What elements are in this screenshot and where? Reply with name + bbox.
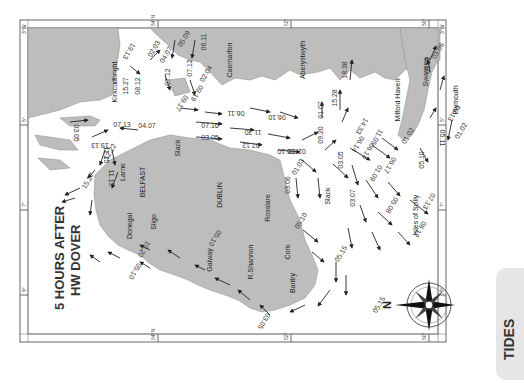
svg-text:52°: 52° — [283, 332, 289, 340]
svg-text:5°: 5° — [439, 117, 445, 122]
stream-rate-label: 04.07 — [138, 122, 156, 129]
svg-text:54°N: 54°N — [150, 328, 156, 340]
place-name-label: Larne — [119, 163, 126, 181]
place-name-label: Isles of Scilly — [412, 194, 420, 235]
stream-rate-label: 05.10 — [418, 151, 425, 169]
place-name-label: Caernarfon — [226, 42, 233, 77]
svg-text:9°: 9° — [21, 287, 27, 292]
stream-rate-label: 07.12 — [164, 68, 171, 86]
stream-rate-label: 03.06 — [284, 176, 291, 194]
svg-text:50°: 50° — [421, 18, 427, 26]
place-name-label: Galway — [206, 248, 214, 272]
stream-rate-label: 06.11 — [227, 110, 244, 117]
svg-text:54°N: 54°N — [150, 14, 156, 26]
place-name-label: Kirkcudbright — [111, 62, 119, 103]
stream-rate-label: 07.16 — [201, 122, 219, 129]
place-name-label: Slack — [174, 139, 181, 157]
place-name-label: BELFAST — [139, 166, 146, 197]
stream-rate-label: 15.27 — [122, 77, 129, 95]
place-name-label: Slack — [324, 187, 331, 205]
stream-rate-label: 06.10 — [268, 114, 286, 121]
svg-text:7°: 7° — [439, 202, 445, 207]
compass-north-label: N — [381, 301, 393, 309]
stream-rate-label: 03.05 — [337, 151, 344, 169]
place-name-label: Bantry — [289, 272, 297, 293]
stream-rate-label: 06.11 — [200, 33, 207, 50]
place-name-label: Milford Haven — [394, 78, 401, 121]
stream-rate-label: 03.07 — [349, 189, 356, 207]
tidal-stream-map: 5 HOURS AFTER HW DOVER 3°W 54°N 52° 50° … — [0, 0, 524, 383]
title-line-2: HW DOVER — [68, 224, 83, 296]
svg-text:3°W: 3°W — [21, 24, 27, 34]
stream-rate-label: 07.12 — [242, 142, 260, 149]
stream-rate-label: 05.11 — [439, 130, 446, 147]
place-name-label: Plymouth — [452, 85, 460, 114]
stream-rate-label: 01.07 — [317, 101, 324, 119]
svg-text:TIDES: TIDES — [501, 319, 517, 360]
svg-text:5°: 5° — [21, 117, 27, 122]
place-name-label: Donegal — [126, 213, 134, 240]
place-name-label: DUBLIN — [216, 182, 223, 208]
stream-rate-label: 09.20 — [317, 126, 324, 144]
stream-rate-label: 03.05 — [201, 134, 219, 141]
place-name-label: Rosslare — [264, 194, 271, 222]
stream-rate-label: 18.38 — [341, 61, 348, 79]
title-line-1: 5 HOURS AFTER — [52, 205, 67, 310]
svg-text:50°: 50° — [421, 332, 427, 340]
svg-text:52°: 52° — [283, 18, 289, 26]
svg-text:3°W: 3°W — [439, 24, 445, 34]
stream-rate-label: 01.02 — [453, 121, 468, 140]
place-name-label: R.Shannon — [247, 244, 254, 279]
tides-tab-label: TIDES — [498, 292, 520, 362]
svg-text:7°: 7° — [21, 202, 27, 207]
stream-rate-label: 08.12 — [134, 77, 141, 95]
stream-rate-label: 07.12 — [186, 59, 193, 77]
place-name-label: Cork — [284, 244, 291, 259]
stream-rate-label: 03.05 — [73, 124, 80, 142]
stream-rate-label: 11.30 — [244, 129, 261, 136]
stream-rate-label: 15.28 — [331, 89, 338, 107]
place-name-label: Swansea — [422, 57, 429, 86]
place-name-label: Sligo — [150, 214, 158, 230]
place-name-label: Aberystwyth — [299, 41, 307, 79]
stream-rate-label: 07.13 — [113, 121, 131, 128]
stream-rate-label: 05.10 — [277, 148, 295, 155]
stream-rate-label: 11.19 — [108, 170, 115, 187]
